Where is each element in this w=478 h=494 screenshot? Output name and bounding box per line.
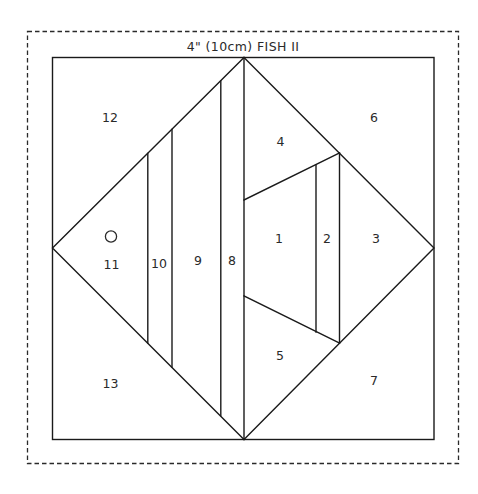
seam-1-4 <box>244 153 340 200</box>
piece-label-13: 13 <box>103 376 119 391</box>
seam-1-5 <box>244 296 340 343</box>
eye-icon <box>105 231 116 242</box>
piece-label-1: 1 <box>275 231 283 246</box>
piece-label-9: 9 <box>194 253 202 268</box>
piece-label-2: 2 <box>323 231 331 246</box>
piece-label-7: 7 <box>370 373 378 388</box>
piece-label-10: 10 <box>151 256 167 271</box>
seam-allowance-border <box>28 32 459 464</box>
piece-label-6: 6 <box>370 110 378 125</box>
piece-label-11: 11 <box>104 257 120 272</box>
pattern-title: 4" (10cm) FISH II <box>187 39 300 54</box>
piece-label-3: 3 <box>372 231 380 246</box>
fish-block-pattern: 4" (10cm) FISH II 1 2 3 4 5 6 7 8 9 10 1… <box>0 0 478 494</box>
piece-label-8: 8 <box>228 253 236 268</box>
piece-label-5: 5 <box>276 348 284 363</box>
piece-label-12: 12 <box>102 110 118 125</box>
piece-label-4: 4 <box>277 134 285 149</box>
